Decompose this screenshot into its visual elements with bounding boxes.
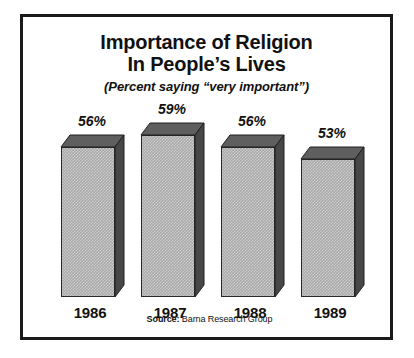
bar-group-1989: 53% 1989 bbox=[301, 159, 355, 297]
chart-frame: Importance of Religion In People’s Lives… bbox=[20, 14, 393, 340]
bar-group-1987: 59% 1987 bbox=[141, 135, 195, 297]
bar-front-face-1988 bbox=[221, 147, 275, 297]
bar-side-face-1988 bbox=[275, 147, 284, 297]
source-organization: Barna Research Group bbox=[179, 314, 272, 324]
bar-top-face-1986 bbox=[61, 135, 115, 147]
source-note: Source: Barna Research Group bbox=[23, 314, 396, 324]
bar-front-face-1987 bbox=[141, 135, 195, 297]
bar-value-label-1988: 56% bbox=[225, 113, 279, 129]
bar-side-face-1987 bbox=[195, 135, 204, 297]
plot-area: 56% 1986 59% bbox=[23, 17, 396, 343]
source-prefix: Source: bbox=[147, 314, 180, 324]
bar-top-face-1988 bbox=[221, 135, 275, 147]
bar-group-1986: 56% 1986 bbox=[61, 147, 115, 297]
bar-group-1988: 56% 1988 bbox=[221, 147, 275, 297]
bar-front-face-1989 bbox=[301, 159, 355, 297]
bar-side-face-1989 bbox=[355, 159, 364, 297]
bar-value-label-1986: 56% bbox=[65, 113, 119, 129]
bar-side-face-1986 bbox=[115, 147, 124, 297]
bar-top-face-1987 bbox=[141, 123, 195, 135]
bar-front-face-1986 bbox=[61, 147, 115, 297]
bar-value-label-1989: 53% bbox=[305, 125, 359, 141]
bar-top-face-1989 bbox=[301, 147, 355, 159]
bar-value-label-1987: 59% bbox=[145, 101, 199, 117]
